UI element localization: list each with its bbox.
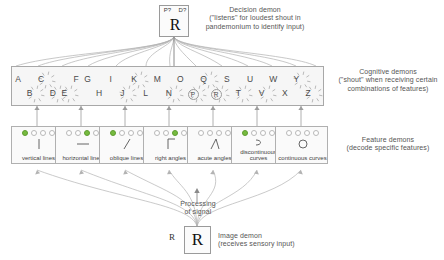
decision-demon-annotation-title: Decision demon	[202, 6, 308, 14]
feature-demons-annotation-body: (decode specific features)	[347, 144, 430, 151]
feature-demon-indicator-dot	[295, 130, 301, 136]
feature-demon-indicator-dot	[313, 130, 319, 136]
cognitive-demons-annotation-body: ("shout" when receiving certain combinat…	[338, 76, 437, 91]
cognitive-demons-band	[11, 66, 324, 106]
feature-demon-indicator-dot	[198, 130, 204, 136]
feature-demon-label: continuous curves	[276, 155, 329, 162]
feature-demon-box-continuous-curves: continuous curves	[275, 126, 328, 164]
feature-demon-indicator-dot	[286, 130, 292, 136]
decision-demon-box: P? D? R	[159, 5, 189, 37]
feature-to-cognitive-connectors	[0, 104, 444, 128]
decision-demon-annotation-body: ("listens" for loudest shout in pandemon…	[206, 14, 305, 29]
feature-demon-indicator-dot	[251, 130, 257, 136]
feature-demon-indicator-dot	[128, 130, 134, 136]
sensory-input-letter: R	[165, 232, 179, 242]
decision-demon-output-letter: R	[160, 14, 190, 36]
image-demon-annotation-title: Image demon	[218, 232, 336, 240]
decision-demon-candidates: P? D?	[160, 6, 190, 14]
decision-candidate-p: P?	[164, 6, 171, 14]
feature-demon-indicator-dot	[172, 130, 178, 136]
decision-demon-annotation: Decision demon ("listens" for loudest sh…	[202, 6, 308, 31]
feature-demons-annotation: Feature demons (decode specific features…	[334, 136, 442, 153]
feature-demon-indicator-dot	[31, 130, 37, 136]
feature-demon-indicator-dot	[84, 130, 90, 136]
feature-demon-indicator-dot	[154, 130, 160, 136]
feature-demon-indicator-dot	[207, 130, 213, 136]
feature-demon-indicator-dot	[304, 130, 310, 136]
feature-demon-indicator-dot	[110, 130, 116, 136]
processing-label: Processing of signal	[142, 200, 254, 217]
feature-demons-annotation-title: Feature demons	[334, 136, 442, 144]
feature-demon-indicator-dot	[163, 130, 169, 136]
feature-demon-indicator-dot	[75, 130, 81, 136]
image-demon-box: R	[184, 226, 211, 254]
feature-demon-indicator-dot	[22, 130, 28, 136]
feature-demon-indicator-dot	[40, 130, 46, 136]
feature-demon-indicator-dot	[66, 130, 72, 136]
decision-candidate-d: D?	[179, 6, 187, 14]
pandemonium-diagram: P? D? R Decision demon ("listens" for lo…	[0, 0, 444, 260]
feature-demon-indicator-dot	[242, 130, 248, 136]
feature-demon-indicator-dot	[260, 130, 266, 136]
image-demon-letter: R	[192, 230, 203, 250]
feature-demon-indicator-dot	[216, 130, 222, 136]
cognitive-demons-annotation: Cognitive demons ("shout" when receiving…	[336, 68, 440, 93]
continuous-curve-icon	[276, 138, 329, 150]
cognitive-demons-annotation-title: Cognitive demons	[336, 68, 440, 76]
processing-label-line1: Processing	[142, 200, 254, 208]
image-to-feature-fan	[0, 164, 444, 228]
image-demon-annotation: Image demon (receives sensory input)	[218, 232, 336, 249]
image-demon-annotation-body: (receives sensory input)	[218, 240, 295, 247]
feature-demon-indicator-dot	[119, 130, 125, 136]
processing-label-line2: of signal	[185, 208, 212, 215]
cognitive-to-decision-fan	[0, 36, 444, 67]
feature-demon-indicator-row	[276, 130, 329, 138]
